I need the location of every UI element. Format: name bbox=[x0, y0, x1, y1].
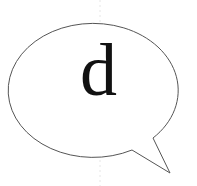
bubble-letter: d bbox=[0, 30, 197, 110]
